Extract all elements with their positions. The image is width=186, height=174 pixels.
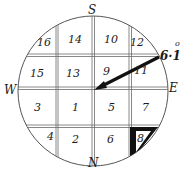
cell-label: 16 <box>37 37 51 48</box>
grid-drawing <box>0 0 186 174</box>
cell-label: 1 <box>72 102 79 113</box>
cell-label: 13 <box>66 68 80 79</box>
cell-label-highlighted: 8 <box>137 133 144 144</box>
cell-label: 7 <box>142 102 149 113</box>
arrow-label: 6·1 <box>160 50 181 62</box>
direction-top: S <box>88 4 96 16</box>
cell-label: 5 <box>108 102 115 113</box>
cell-label: 9 <box>103 66 110 77</box>
cell-label: 4 <box>47 131 54 142</box>
grid-lines <box>0 0 186 174</box>
compass-grid-diagram: S N W E 16 14 10 12 15 13 9 11 3 1 5 7 4… <box>0 0 186 174</box>
cell-label: 12 <box>130 37 144 48</box>
degree-mark: o <box>175 40 180 48</box>
cell-label: 10 <box>104 34 118 45</box>
arrowhead-icon <box>94 81 107 90</box>
direction-right: E <box>169 82 178 94</box>
cell-label: 6 <box>107 134 114 145</box>
cell-label: 2 <box>72 134 79 145</box>
direction-bottom: N <box>88 157 99 169</box>
cell-label: 11 <box>134 65 148 76</box>
direction-left: W <box>4 84 16 96</box>
cell-label: 15 <box>30 68 44 79</box>
cell-label: 14 <box>68 34 82 45</box>
cell-label: 3 <box>34 102 41 113</box>
